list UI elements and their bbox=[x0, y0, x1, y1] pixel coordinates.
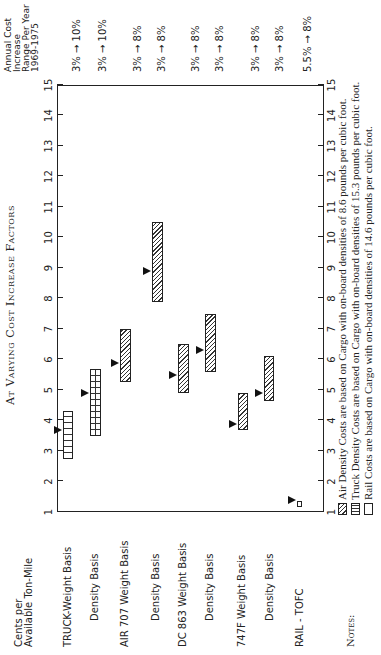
tick-mark bbox=[57, 481, 63, 482]
tick-mark bbox=[57, 206, 63, 207]
triangle-marker-icon bbox=[196, 346, 204, 354]
right-column-header: Annual Cost Increase Range Per Year 1969… bbox=[4, 0, 40, 72]
tick-label: 13 bbox=[43, 136, 54, 156]
tick-label: 3 bbox=[43, 441, 54, 461]
tick-mark bbox=[318, 298, 324, 299]
range-bar bbox=[90, 369, 101, 436]
range-bar bbox=[120, 329, 131, 382]
row-label: AIR 707 Weight Basis bbox=[119, 519, 130, 647]
tick-mark bbox=[57, 359, 63, 360]
tick-mark bbox=[318, 511, 324, 512]
pct-label: 3% → 10% bbox=[97, 2, 108, 72]
pct-label: 3% → 8% bbox=[132, 2, 143, 72]
axis-label: Cents per Available Ton-Mile bbox=[14, 517, 34, 647]
triangle-marker-icon bbox=[255, 389, 263, 397]
pct-label: 3% → 8% bbox=[156, 2, 167, 72]
note-truck: Truck Density Costs are based on Cargo w… bbox=[349, 82, 361, 500]
chart-title: At Varying Cost Increase Factors bbox=[4, 85, 17, 525]
tick-mark bbox=[318, 206, 324, 207]
tick-mark bbox=[57, 389, 63, 390]
row-label: RAIL - TOFC bbox=[294, 519, 305, 647]
tick-mark bbox=[318, 145, 324, 146]
tick-label: 14 bbox=[43, 106, 54, 126]
tick-mark bbox=[57, 298, 63, 299]
tick-label: 15 bbox=[326, 75, 337, 95]
row-label: 747F Weight Basis bbox=[236, 519, 247, 647]
tick-mark bbox=[318, 176, 324, 177]
tick-mark bbox=[318, 267, 324, 268]
range-bar bbox=[205, 314, 216, 372]
triangle-marker-icon bbox=[288, 496, 296, 504]
swatch-diagonal-hatch-icon bbox=[338, 503, 347, 515]
pct-label: 3% → 10% bbox=[71, 2, 82, 72]
axis-label-line: Available Ton-Mile bbox=[24, 517, 34, 647]
range-bar bbox=[178, 344, 189, 393]
range-bar bbox=[63, 411, 73, 458]
triangle-marker-icon bbox=[81, 389, 89, 397]
tick-mark bbox=[318, 237, 324, 238]
tick-mark bbox=[318, 115, 324, 116]
triangle-marker-icon bbox=[54, 426, 62, 434]
tick-label: 7 bbox=[43, 319, 54, 339]
tick-mark bbox=[57, 237, 63, 238]
tick-mark bbox=[318, 328, 324, 329]
tick-mark bbox=[57, 328, 63, 329]
tick-mark bbox=[318, 450, 324, 451]
swatch-vertical-lines-icon bbox=[351, 503, 360, 515]
tick-label: 1 bbox=[43, 502, 54, 522]
row-label: Density Basis bbox=[89, 493, 100, 647]
chart-stage: At Varying Cost Increase Factors Cents p… bbox=[0, 0, 381, 655]
tick-mark bbox=[57, 267, 63, 268]
range-bar bbox=[297, 501, 302, 507]
triangle-marker-icon bbox=[229, 420, 237, 428]
triangle-marker-icon bbox=[143, 267, 151, 275]
tick-label: 4 bbox=[43, 411, 54, 431]
tick-mark bbox=[57, 511, 63, 512]
tick-mark bbox=[318, 389, 324, 390]
tick-label: 5 bbox=[43, 380, 54, 400]
tick-label: 8 bbox=[43, 289, 54, 309]
pct-label: 3% → 8% bbox=[214, 2, 225, 72]
range-bar bbox=[238, 393, 248, 430]
pct-label: 5.5% → 8% bbox=[302, 2, 313, 72]
pct-label: 3% → 8% bbox=[274, 2, 285, 72]
tick-mark bbox=[57, 145, 63, 146]
tick-label: 9 bbox=[43, 258, 54, 278]
row-label: Density Basis bbox=[264, 493, 275, 647]
triangle-marker-icon bbox=[111, 359, 119, 367]
tick-mark bbox=[318, 420, 324, 421]
range-bar bbox=[152, 222, 163, 301]
tick-label: 10 bbox=[43, 228, 54, 248]
pct-label: 3% → 8% bbox=[190, 2, 201, 72]
row-label: TRUCK-Weight Basis bbox=[62, 519, 73, 647]
tick-label: 6 bbox=[43, 350, 54, 370]
tick-mark bbox=[318, 359, 324, 360]
note-air: Air Density Costs are based on Cargo wit… bbox=[336, 98, 348, 500]
tick-label: 11 bbox=[43, 197, 54, 217]
row-label: Density Basis bbox=[204, 493, 215, 647]
tick-label: 2 bbox=[43, 472, 54, 492]
plot-frame bbox=[57, 85, 324, 512]
tick-mark bbox=[57, 84, 63, 85]
row-label: DC 863 Weight Basis bbox=[177, 519, 188, 647]
header-line: 1969-1975 bbox=[31, 0, 40, 72]
tick-label: 1 bbox=[326, 502, 337, 522]
triangle-marker-icon bbox=[169, 371, 177, 379]
range-bar bbox=[264, 356, 274, 400]
row-label: Density Basis bbox=[150, 493, 161, 647]
notes-label: Notes: bbox=[345, 615, 356, 647]
tick-label: 12 bbox=[43, 167, 54, 187]
tick-mark bbox=[57, 115, 63, 116]
tick-mark bbox=[318, 84, 324, 85]
tick-label: 15 bbox=[43, 75, 54, 95]
note-rail: Rail Costs are based on Cargo with on-bo… bbox=[362, 126, 374, 500]
pct-label: 3% → 8% bbox=[250, 2, 261, 72]
tick-mark bbox=[57, 176, 63, 177]
swatch-empty-icon bbox=[364, 503, 373, 515]
tick-mark bbox=[318, 481, 324, 482]
